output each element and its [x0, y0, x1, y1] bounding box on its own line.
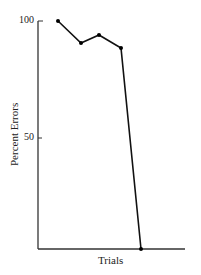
- x-axis-label: Trials: [98, 254, 123, 266]
- y-axis-label: Percent Errors: [8, 103, 20, 166]
- data-point: [56, 19, 60, 23]
- data-point: [119, 46, 123, 50]
- data-point: [139, 247, 143, 251]
- data-point: [97, 33, 101, 37]
- data-point: [79, 41, 83, 45]
- y-tick-label-100: 100: [4, 14, 34, 25]
- data-line: [58, 21, 141, 249]
